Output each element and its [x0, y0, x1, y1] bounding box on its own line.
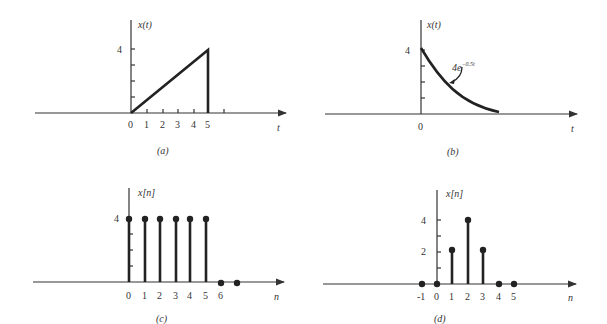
caption-b: (b)	[447, 146, 459, 158]
y-label: x[n]	[137, 187, 155, 198]
figure-canvas: x(t) 4 0 1 2 3 4 5 t (a) x(t) 4 0 4e−0.5…	[0, 0, 607, 324]
x-tick-label: 6	[218, 290, 223, 301]
x-tick-label: 4	[191, 119, 196, 130]
x-tick-label: 3	[480, 291, 485, 302]
caption-a: (a)	[157, 145, 169, 157]
stems	[126, 216, 240, 286]
ramp-signal	[131, 50, 208, 113]
x-tick-label: 5	[203, 290, 208, 301]
y-label: x[n]	[445, 188, 463, 199]
annotation-label: 4e−0.5t	[452, 61, 475, 73]
x-tick-label: 1	[142, 290, 147, 301]
x-tick-label: 3	[175, 119, 180, 130]
x-tick-label: 0	[418, 121, 423, 132]
stems	[419, 217, 517, 287]
y-tick-label-4: 4	[117, 44, 122, 55]
x-tick-label: 1	[144, 119, 149, 130]
x-tick-label: 4	[187, 290, 192, 301]
x-label: t	[571, 123, 574, 134]
x-tick-label: 4	[496, 291, 501, 302]
panel-c: x[n] 4 0 1 2 3 4 5 6 n (c)	[33, 187, 284, 324]
x-tick-label: 0	[434, 291, 439, 302]
x-label: t	[277, 122, 280, 133]
x-tick-label: 5	[205, 119, 210, 130]
y-label: x(t)	[137, 19, 153, 31]
x-tick-label: 2	[160, 119, 165, 130]
y-tick-label-4: 4	[421, 215, 426, 226]
caption-c: (c)	[156, 313, 168, 324]
y-tick-label-4: 4	[114, 213, 119, 224]
x-tick-label: 3	[173, 290, 178, 301]
panel-d: x[n] 4 2 -1 0 1 2 3 4 5 n (d)	[323, 188, 576, 324]
y-tick-label-2: 2	[421, 246, 426, 257]
y-label: x(t)	[426, 19, 442, 31]
x-tick-label: 2	[465, 291, 470, 302]
x-tick-label: 5	[511, 291, 516, 302]
panel-b: x(t) 4 0 4e−0.5t t (b)	[325, 19, 577, 158]
x-tick-label: -1	[417, 291, 425, 302]
x-tick-label: 2	[157, 290, 162, 301]
x-tick-label: 0	[126, 290, 131, 301]
x-tick-label: 0	[128, 119, 133, 130]
caption-d: (d)	[434, 313, 446, 324]
x-label: n	[274, 291, 279, 302]
x-label: n	[568, 292, 573, 303]
exponential-signal	[421, 48, 499, 112]
x-tick-label: 1	[449, 291, 454, 302]
y-ticks	[131, 49, 135, 97]
panel-a: x(t) 4 0 1 2 3 4 5 t (a)	[35, 19, 286, 157]
y-tick-label-4: 4	[405, 45, 410, 56]
